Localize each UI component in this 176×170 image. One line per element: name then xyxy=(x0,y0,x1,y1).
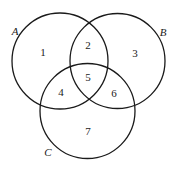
region-6: 6 xyxy=(111,87,117,99)
circle-b xyxy=(70,14,165,109)
region-7: 7 xyxy=(85,125,91,137)
region-2: 2 xyxy=(85,39,91,51)
region-4: 4 xyxy=(58,86,64,98)
set-label-c: C xyxy=(44,146,52,158)
region-5: 5 xyxy=(85,71,91,83)
venn-diagram: A B C 1 2 3 4 5 6 7 xyxy=(0,0,176,170)
region-3: 3 xyxy=(132,47,138,59)
set-label-b: B xyxy=(160,26,167,38)
set-label-a: A xyxy=(11,25,19,37)
region-1: 1 xyxy=(40,46,46,58)
